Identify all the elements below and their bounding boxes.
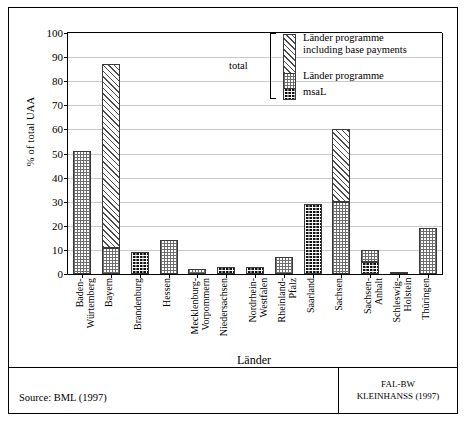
x-tick-label: Sachsen- Anhalt (363, 278, 384, 314)
y-tick-label: 40 (52, 172, 63, 184)
y-tick-label: 90 (52, 51, 63, 63)
figure-frame: % of total UAA 0102030405060708090100 Ba… (8, 7, 458, 414)
x-tick-label: Thüringen (421, 278, 432, 320)
figure-footer: Source: BML (1997) FAL-BW KLEINHANSS (19… (9, 367, 457, 413)
y-tick-label: 10 (52, 244, 63, 256)
x-tick-label: Saarland (306, 278, 317, 313)
y-tick-label: 60 (52, 123, 63, 135)
legend-bracket (270, 33, 276, 99)
y-tick-label: 70 (52, 99, 63, 111)
bar-group (188, 33, 206, 274)
x-tick-label: Niedersachsen (219, 278, 230, 336)
bar-segment-diagonal (332, 129, 350, 201)
bar-segment-black (304, 204, 322, 274)
bar-segment-diagonal (102, 64, 120, 247)
bar-segment-checkerboard (160, 240, 178, 274)
bar-group (102, 33, 120, 274)
bar-group (73, 33, 91, 274)
credit-note: FAL-BW KLEINHANSS (1997) (339, 378, 457, 402)
legend-swatch-diagonal (283, 34, 296, 74)
legend: total Länder programme including base pa… (277, 32, 449, 110)
y-tick-label: 80 (52, 75, 63, 87)
chart-area: % of total UAA 0102030405060708090100 Ba… (9, 8, 457, 368)
y-tick-label: 100 (47, 27, 64, 39)
bar-segment-black (361, 262, 379, 274)
x-axis-title: Länder (67, 353, 441, 368)
bar-segment-checkerboard (419, 228, 437, 274)
x-tick-label: Brandenburg (133, 278, 144, 330)
legend-swatch-checkerboard (283, 73, 296, 89)
bar-segment-checkerboard (361, 250, 379, 262)
y-tick-label: 0 (58, 268, 64, 280)
credit-box: FAL-BW KLEINHANSS (1997) (338, 368, 457, 413)
x-tick-label: Nordrhein- Westfalen (248, 278, 269, 322)
bar-segment-black (131, 252, 149, 274)
y-tick-label: 50 (52, 148, 63, 160)
legend-label-1: Länder programme (303, 70, 384, 82)
x-tick-label: Bayern (104, 278, 115, 307)
y-axis-title: % of total UAA (25, 67, 36, 197)
bar-segment-checkerboard (275, 257, 293, 274)
x-tick-label: Mecklenburg- Vorpommern (190, 278, 211, 334)
legend-label-2: msaL (303, 86, 326, 98)
bar-segment-checkerboard (73, 151, 91, 274)
bar-group (131, 33, 149, 274)
bar-group (160, 33, 178, 274)
x-tick-label: Baden- Würtemberg (75, 278, 96, 328)
y-tick-label: 20 (52, 220, 63, 232)
legend-swatch-black (283, 88, 296, 100)
bar-segment-black (217, 267, 235, 274)
y-tick-label: 30 (52, 196, 63, 208)
legend-swatch-stack (283, 34, 296, 100)
source-note: Source: BML (1997) (19, 392, 107, 403)
legend-total-label: total (229, 60, 248, 71)
legend-label-0: Länder programme including base payments (303, 32, 407, 55)
bar-segment-black (246, 267, 264, 274)
y-tick-mark (64, 274, 68, 275)
x-tick-label: Hessen (162, 278, 173, 307)
bar-segment-checkerboard (102, 248, 120, 275)
x-tick-label: Rheinland- Pfalz (277, 278, 298, 322)
bar-group (246, 33, 264, 274)
x-tick-label: Schleswig- Holstein (392, 278, 413, 322)
bar-segment-checkerboard (332, 202, 350, 274)
x-tick-label: Sachsen (334, 278, 345, 311)
